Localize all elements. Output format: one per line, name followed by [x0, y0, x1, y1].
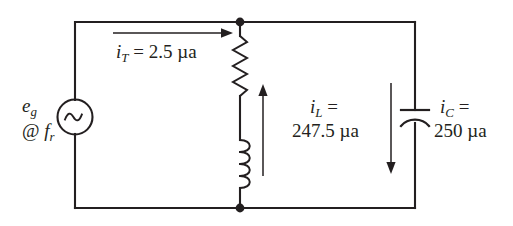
inductor-current-label-line1: iL =: [292, 96, 359, 120]
ic-current-arrow: [386, 83, 395, 174]
capacitor-current-label-line2: 250 µa: [434, 120, 487, 141]
sine-wave-icon: [65, 114, 82, 121]
source-label: eg @ fr: [22, 95, 55, 144]
circuit-diagram: eg @ fr iT = 2.5 µa iL = 247.5 µa iC = 2…: [0, 0, 513, 226]
inductor-current-label: iL = 247.5 µa: [292, 96, 359, 141]
inductor-coil-icon: [240, 140, 250, 188]
ac-source-circle: [58, 100, 93, 135]
source-label-line1: eg: [22, 95, 55, 119]
total-current-label: iT = 2.5 µa: [116, 41, 197, 65]
resistor-zigzag-icon: [233, 36, 247, 96]
inductor-current-label-line2: 247.5 µa: [292, 120, 359, 141]
top-node-dot: [236, 18, 245, 27]
bottom-node-dot: [236, 204, 245, 213]
capacitor-current-label: iC = 250 µa: [434, 96, 487, 141]
il-current-arrow: [258, 84, 267, 176]
capacitor-current-label-line1: iC =: [434, 96, 487, 120]
it-current-arrow: [113, 28, 233, 38]
source-label-line2: @ fr: [22, 120, 55, 144]
